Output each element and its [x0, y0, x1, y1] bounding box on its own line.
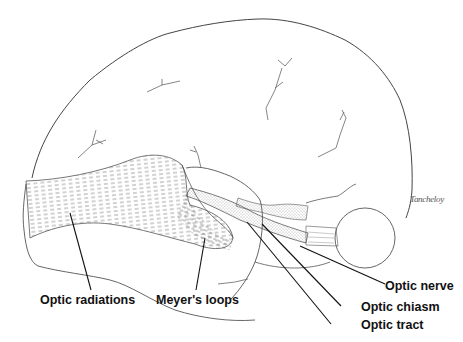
- label-optic-chiasm: Optic chiasm: [361, 301, 440, 314]
- label-optic-radiations: Optic radiations: [40, 294, 135, 307]
- artist-signature: Tancheloy: [410, 194, 444, 204]
- optic-nerve-shape: [306, 226, 338, 246]
- label-optic-tract: Optic tract: [361, 319, 424, 332]
- optic-radiations-shape: [26, 155, 233, 250]
- eye-globe: [335, 208, 395, 268]
- brain-outline: [23, 19, 412, 321]
- label-optic-nerve: Optic nerve: [385, 280, 454, 293]
- label-meyers-loops: Meyer's loops: [156, 294, 239, 307]
